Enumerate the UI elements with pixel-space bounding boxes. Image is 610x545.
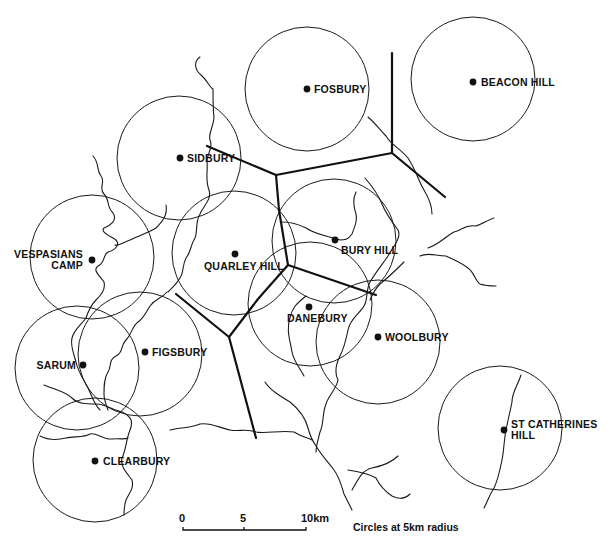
territory-boundaries [176, 53, 445, 438]
site-label-bury-hill: BURY HILL [341, 245, 398, 256]
site-dot-sarum [80, 362, 87, 369]
site-dot-danebury [306, 304, 313, 311]
site-label-quarley-hill: QUARLEY HILL [204, 261, 284, 272]
scale-tick-0: 0 [179, 512, 185, 524]
site-dot-woolbury [375, 334, 382, 341]
site-dot-beacon-hill [470, 79, 477, 86]
site-dot-vespasians-camp [89, 257, 96, 264]
site-label-vespasians-camp-line2: CAMP [14, 260, 83, 271]
scale-bar [183, 527, 306, 530]
radius-circles [15, 17, 562, 522]
site-label-danebury: DANEBURY [287, 313, 348, 324]
site-label-sidbury: SIDBURY [187, 153, 235, 164]
scale-tick-10km: 10km [301, 512, 329, 524]
site-dot-figsbury [142, 349, 149, 356]
site-dot-sidbury [177, 155, 184, 162]
rivers [40, 57, 521, 515]
site-label-clearbury: CLEARBURY [103, 456, 170, 467]
site-label-woolbury: WOOLBURY [385, 332, 449, 343]
site-dot-quarley-hill [232, 251, 239, 258]
site-dot-clearbury [92, 458, 99, 465]
site-label-sarum: SARUM [20, 360, 76, 371]
site-dot-bury-hill [332, 237, 339, 244]
scale-tick-5: 5 [240, 512, 246, 524]
site-label-fosbury: FOSBURY [314, 84, 366, 95]
site-dot-st-catherines-hill [501, 427, 508, 434]
site-dot-fosbury [304, 86, 311, 93]
legend-note: Circles at 5km radius [353, 521, 459, 533]
site-label-st-catherines-line2: HILL [511, 430, 535, 441]
site-label-figsbury: FIGSBURY [152, 347, 207, 358]
site-label-beacon-hill: BEACON HILL [481, 77, 555, 88]
